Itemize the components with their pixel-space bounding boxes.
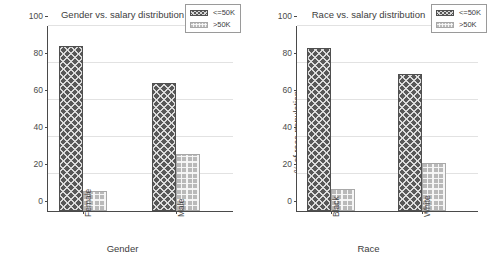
gender-y-tick-label: 40 bbox=[34, 122, 48, 132]
race-y-tick-label: 0 bbox=[287, 196, 297, 206]
race-y-tick-label: 100 bbox=[278, 11, 297, 21]
race-legend-item[interactable]: >50K bbox=[436, 20, 481, 29]
race-chart-figure: Race vs. salary distribution % of race p… bbox=[246, 0, 491, 263]
race-chart-x-axis-label: Race bbox=[246, 243, 491, 254]
race-legend-label: >50K bbox=[459, 20, 477, 29]
race-legend-label: <=50K bbox=[459, 8, 481, 17]
gender-chart-legend: <=50K>50K bbox=[185, 4, 241, 33]
gender-y-tick-label: 60 bbox=[34, 85, 48, 95]
gender-bar-male-under50k bbox=[152, 83, 176, 211]
race-y-tick-label: 40 bbox=[283, 122, 297, 132]
gender-legend-swatch-under50k-icon bbox=[190, 10, 208, 16]
gender-legend-swatch-over50k-icon bbox=[190, 22, 208, 28]
gender-x-tick-label: Male bbox=[176, 199, 186, 217]
race-legend-swatch-under50k-icon bbox=[436, 10, 454, 16]
race-bar-black-under50k bbox=[307, 48, 331, 211]
race-legend-swatch-over50k-icon bbox=[436, 22, 454, 28]
race-y-tick-label: 60 bbox=[283, 85, 297, 95]
race-y-tick-label: 20 bbox=[283, 159, 297, 169]
gender-legend-item[interactable]: <=50K bbox=[190, 8, 235, 17]
gender-chart-figure: Gender vs. salary distribution % of gend… bbox=[0, 0, 245, 263]
gender-y-tick-label: 80 bbox=[34, 48, 48, 58]
gender-bar-female-under50k bbox=[59, 46, 83, 211]
gender-y-tick-label: 20 bbox=[34, 159, 48, 169]
gender-chart-x-axis-label: Gender bbox=[0, 243, 245, 254]
gender-chart-plot-area: 020406080100FemaleMale bbox=[47, 26, 233, 212]
race-x-tick-label: White bbox=[422, 195, 432, 217]
gender-y-tick-label: 0 bbox=[38, 196, 48, 206]
gender-legend-label: >50K bbox=[213, 20, 231, 29]
race-chart-plot-area: 020406080100BlackWhite bbox=[296, 26, 478, 212]
race-legend-item[interactable]: <=50K bbox=[436, 8, 481, 17]
gender-legend-item[interactable]: >50K bbox=[190, 20, 235, 29]
race-chart-legend: <=50K>50K bbox=[431, 4, 487, 33]
race-y-tick-label: 80 bbox=[283, 48, 297, 58]
gender-legend-label: <=50K bbox=[213, 8, 235, 17]
race-bar-white-under50k bbox=[398, 74, 422, 211]
gender-y-tick-label: 100 bbox=[29, 11, 48, 21]
gender-x-tick-label: Female bbox=[83, 189, 93, 217]
race-x-tick-label: Black bbox=[331, 196, 341, 217]
